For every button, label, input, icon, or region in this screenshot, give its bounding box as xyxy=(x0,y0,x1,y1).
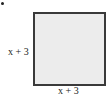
bullet-dot xyxy=(1,2,4,5)
side-label-bottom: x + 3 xyxy=(58,85,79,96)
square-shape xyxy=(33,12,106,86)
side-label-left: x + 3 xyxy=(8,46,29,57)
